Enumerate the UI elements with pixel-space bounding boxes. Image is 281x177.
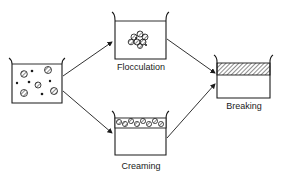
arrow-creaming-to-breaking bbox=[167, 84, 215, 138]
diagram-graphics bbox=[0, 0, 281, 177]
label-breaking: Breaking bbox=[226, 101, 262, 111]
arrow-initial-to-creaming bbox=[63, 91, 112, 133]
beaker-initial bbox=[9, 58, 65, 103]
beaker-creaming bbox=[112, 111, 169, 155]
floc-cluster bbox=[128, 31, 148, 49]
arrow-initial-to-flocculation bbox=[63, 42, 112, 76]
emulsion-diagram: Flocculation Creaming Breaking bbox=[0, 0, 281, 177]
separated-oil-layer bbox=[217, 63, 270, 75]
label-creaming: Creaming bbox=[121, 161, 160, 171]
beaker-flocculation bbox=[112, 12, 169, 59]
droplets bbox=[16, 67, 58, 97]
arrow-flocculation-to-breaking bbox=[167, 39, 215, 73]
label-flocculation: Flocculation bbox=[117, 62, 165, 72]
beaker-breaking bbox=[214, 55, 273, 98]
